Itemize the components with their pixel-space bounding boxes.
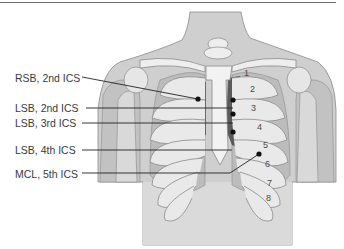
point-mcl-5th-ics [256, 151, 261, 156]
point-lsb-3rd-ics [230, 111, 235, 116]
svg-text:7: 7 [267, 178, 272, 188]
svg-text:6: 6 [265, 159, 270, 169]
point-lsb-4th-ics [230, 129, 235, 134]
label-lsb-3rd-ics: LSB, 3rd ICS [15, 117, 76, 129]
label-mcl-5th-ics: MCL, 5th ICS [15, 168, 78, 180]
svg-text:5: 5 [263, 140, 268, 150]
svg-text:1: 1 [244, 68, 249, 78]
svg-text:4: 4 [257, 122, 262, 132]
label-lsb-2nd-ics: LSB, 2nd ICS [15, 102, 79, 114]
svg-text:8: 8 [266, 193, 271, 203]
point-rsb-2nd-ics [195, 96, 200, 101]
label-lsb-4th-ics: LSB, 4th ICS [15, 144, 76, 156]
point-lsb-2nd-ics [230, 97, 235, 102]
label-rsb-2nd-ics: RSB, 2nd ICS [15, 72, 80, 84]
svg-text:2: 2 [250, 84, 255, 94]
svg-text:3: 3 [251, 103, 256, 113]
